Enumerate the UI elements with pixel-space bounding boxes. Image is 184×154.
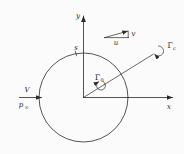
diagram-background: [0, 0, 184, 154]
inner-vortex-symbol: Γ: [95, 73, 100, 82]
inner-vortex-subscript: 0: [101, 77, 104, 83]
outer-vortex-subscript: c: [173, 45, 176, 51]
x-axis-label: x: [167, 103, 171, 111]
outer-vortex-symbol: Γ: [168, 41, 173, 50]
u-component-label: u: [114, 39, 119, 47]
diagram-canvas: y x V p ∞ s u v Γ 0 Γ c: [0, 0, 184, 154]
freestream-pressure-subscript: ∞: [25, 104, 29, 110]
v-component-label: v: [132, 30, 136, 38]
surface-point-label: s: [74, 44, 78, 52]
freestream-pressure-label: p: [19, 101, 24, 109]
